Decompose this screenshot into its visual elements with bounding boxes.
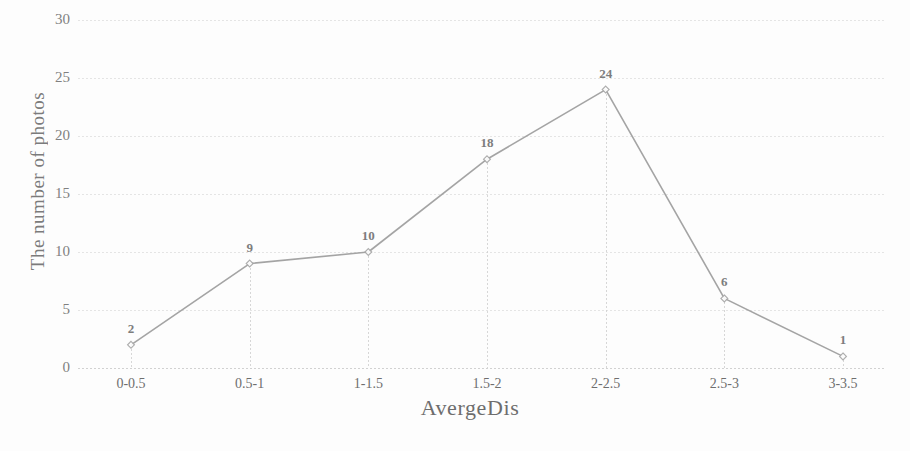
y-axis-tick-label: 20 bbox=[38, 127, 70, 144]
series-line bbox=[78, 20, 885, 368]
x-axis-title: AvergeDis bbox=[0, 395, 910, 421]
data-label: 10 bbox=[362, 228, 375, 244]
line-chart: The number of photos 051015202530 291018… bbox=[0, 0, 910, 451]
y-axis-tick-label: 10 bbox=[38, 243, 70, 260]
data-label: 24 bbox=[599, 66, 612, 82]
x-axis-tick-label: 0-0.5 bbox=[116, 376, 145, 392]
y-axis-title: The number of photos bbox=[27, 51, 49, 311]
data-label: 2 bbox=[128, 321, 135, 337]
data-label: 18 bbox=[481, 135, 494, 151]
gridline bbox=[78, 368, 885, 369]
y-axis-tick-label: 5 bbox=[38, 301, 70, 318]
data-label: 9 bbox=[246, 240, 253, 256]
data-point-marker bbox=[721, 295, 728, 302]
data-label: 1 bbox=[840, 332, 847, 348]
x-axis-tick-label: 2-2.5 bbox=[591, 376, 620, 392]
x-axis-tick-label: 3-3.5 bbox=[828, 376, 857, 392]
x-axis-tick-label: 2.5-3 bbox=[710, 376, 739, 392]
data-point-marker bbox=[840, 353, 847, 360]
y-axis-tick-label: 25 bbox=[38, 69, 70, 86]
x-axis-tick-label: 0.5-1 bbox=[235, 376, 264, 392]
data-label: 6 bbox=[721, 274, 728, 290]
x-axis-tick-label: 1.5-2 bbox=[472, 376, 501, 392]
data-point-marker bbox=[602, 86, 609, 93]
x-axis-tick-label: 1-1.5 bbox=[354, 376, 383, 392]
plot-area: 051015202530 2910182461 0-0.50.5-11-1.51… bbox=[78, 20, 885, 368]
y-axis-tick-label: 0 bbox=[38, 359, 70, 376]
y-axis-tick-label: 15 bbox=[38, 185, 70, 202]
y-axis-tick-label: 30 bbox=[38, 11, 70, 28]
